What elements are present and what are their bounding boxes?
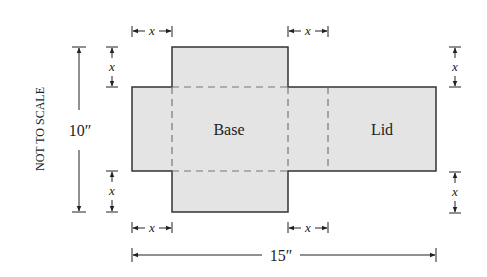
x-label: x: [148, 220, 155, 235]
x-label: x: [451, 184, 458, 199]
height-label: 10″: [69, 122, 92, 139]
x-label: x: [304, 220, 311, 235]
lid-label: Lid: [371, 121, 393, 138]
base-label: Base: [213, 121, 244, 138]
x-label: x: [304, 23, 311, 38]
x-label: x: [108, 59, 115, 74]
width-label: 15″: [270, 247, 293, 264]
x-label: x: [148, 23, 155, 38]
x-label: x: [451, 59, 458, 74]
x-label: x: [108, 183, 115, 198]
box-net-diagram: Base Lid NOT TO SCALE 10″ 15″ x x x: [0, 0, 487, 277]
not-to-scale-note: NOT TO SCALE: [33, 87, 47, 171]
